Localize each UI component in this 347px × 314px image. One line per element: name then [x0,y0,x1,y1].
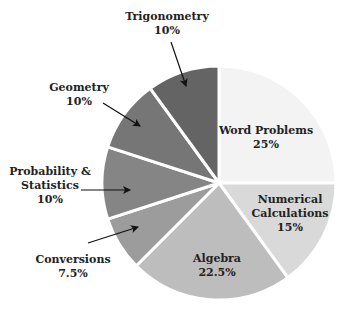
label-probability-pct: 10% [9,193,91,207]
label-numerical-name-line2: Calculations [252,207,329,221]
label-algebra-name: Algebra [193,252,241,266]
label-algebra: Algebra 22.5% [193,252,241,280]
label-geometry: Geometry 10% [49,81,109,109]
label-numerical-name-line1: Numerical [252,193,329,207]
label-probability-statistics: Probability & Statistics 10% [9,165,91,207]
label-geometry-pct: 10% [49,95,109,109]
label-trigonometry-pct: 10% [125,24,209,38]
label-geometry-name: Geometry [49,81,109,95]
label-conversions: Conversions 7.5% [35,253,110,281]
label-algebra-pct: 22.5% [193,266,241,280]
label-numerical-pct: 15% [252,221,329,235]
label-probability-name-line2: Statistics [9,179,91,193]
label-conversions-pct: 7.5% [35,267,110,281]
label-conversions-name: Conversions [35,253,110,267]
label-probability-name-line1: Probability & [9,165,91,179]
label-word-problems-pct: 25% [219,138,313,152]
pie-chart: Trigonometry 10% Geometry 10% Word Probl… [0,0,347,314]
label-trigonometry-name: Trigonometry [125,10,209,24]
label-word-problems-name: Word Problems [219,124,313,138]
label-trigonometry: Trigonometry 10% [125,10,209,38]
label-numerical-calculations: Numerical Calculations 15% [252,193,329,235]
label-word-problems: Word Problems 25% [219,124,313,152]
